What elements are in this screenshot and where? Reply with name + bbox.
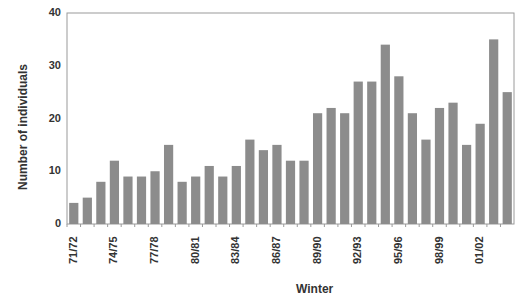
x-tick-label: 89/90 [311,236,323,264]
bar-92-93 [354,82,363,224]
y-tick-label: 0 [31,217,61,229]
bar-73-74 [96,182,105,224]
x-axis-label: Winter [296,282,333,296]
bar-95-96 [394,76,403,224]
x-tick-label: 74/75 [107,236,119,264]
bar-82-83 [218,177,227,224]
bar-90-91 [327,108,336,224]
bar-01-02 [476,124,485,224]
bar-79-80 [178,182,187,224]
x-tick-label: 01/02 [473,236,485,264]
bar-86-87 [272,145,281,224]
bar-80-81 [191,177,200,224]
y-tick-label: 20 [31,112,61,124]
x-tick-label: 77/78 [148,236,160,264]
bar-88-89 [299,161,308,224]
bar-97-98 [421,140,430,224]
y-tick-label: 40 [31,6,61,18]
y-tick-label: 30 [31,59,61,71]
bar-00-01 [462,145,471,224]
x-tick-label: 95/96 [392,236,404,264]
x-tick-label: 92/93 [351,236,363,264]
bar-03-04 [503,92,512,224]
bar-71-72 [69,203,78,224]
x-tick-label: 83/84 [229,236,241,264]
bar-78-79 [164,145,173,224]
bar-75-76 [123,177,132,224]
x-tick-label: 86/87 [270,236,282,264]
x-tick-label: 80/81 [189,236,201,264]
bar-96-97 [408,113,417,224]
bar-94-95 [381,45,390,224]
bar-76-77 [137,177,146,224]
bar-77-78 [150,171,159,224]
y-axis-label: Number of individuals [16,64,30,190]
y-tick-label: 10 [31,164,61,176]
bar-02-03 [489,39,498,224]
bar-87-88 [286,161,295,224]
bar-74-75 [110,161,119,224]
bar-89-90 [313,113,322,224]
bar-81-82 [205,166,214,224]
bar-93-94 [367,82,376,224]
plot-area [0,0,532,306]
bar-chart: Number of individuals Winter 010203040 7… [0,0,532,306]
bar-99-00 [448,103,457,224]
x-tick-label: 98/99 [433,236,445,264]
bar-83-84 [232,166,241,224]
bar-85-86 [259,150,268,224]
bar-91-92 [340,113,349,224]
bar-84-85 [245,140,254,224]
x-tick-label: 71/72 [67,236,79,264]
bar-72-73 [83,198,92,224]
bar-98-99 [435,108,444,224]
